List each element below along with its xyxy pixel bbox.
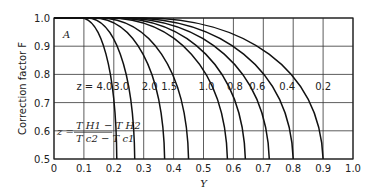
formula-numerator: T H1 − T H2: [76, 120, 141, 131]
x-tick-label: 0.6: [225, 163, 241, 174]
formula-lhs: z =: [56, 126, 74, 137]
curve-label: 1.5: [161, 81, 177, 92]
curve-label: 1.0: [199, 81, 215, 92]
curve-label: 3.0: [113, 81, 129, 92]
curve-label: 0.4: [279, 81, 295, 92]
y-tick-label: 0.8: [34, 69, 50, 80]
curve-label: 0.6: [249, 81, 265, 92]
x-tick-label: 0.9: [315, 163, 331, 174]
x-tick-label: 0.5: [196, 163, 212, 174]
x-tick-label: 0: [51, 163, 57, 174]
x-axis-label: Y: [200, 178, 208, 189]
x-tick-label: 1.0: [345, 163, 361, 174]
x-tick-label: 0.4: [166, 163, 182, 174]
formula-denominator: T c2 − T c1: [76, 133, 134, 144]
curve-label: 0.2: [315, 81, 331, 92]
y-tick-label: 1.0: [34, 13, 50, 24]
x-tick-label: 0.1: [76, 163, 92, 174]
y-tick-label: 0.5: [34, 154, 50, 165]
x-tick-label: 0.3: [136, 163, 152, 174]
y-tick-label: 0.9: [34, 41, 50, 52]
x-tick-label: 0.7: [255, 163, 271, 174]
curve-label: 0.8: [227, 81, 243, 92]
y-tick-label: 0.7: [34, 98, 50, 109]
curve-label: z = 4.0: [76, 81, 112, 92]
curve-label: 2.0: [142, 81, 158, 92]
panel-label: A: [62, 29, 70, 40]
correction-factor-chart: 00.10.20.30.40.50.60.70.80.91.00.50.60.7…: [0, 0, 380, 193]
y-axis-label: Correction factor F: [17, 42, 28, 135]
x-tick-label: 0.8: [285, 163, 301, 174]
y-tick-label: 0.6: [34, 126, 50, 137]
x-tick-label: 0.2: [106, 163, 122, 174]
